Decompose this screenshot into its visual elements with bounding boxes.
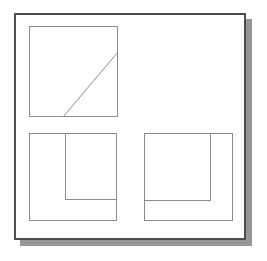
bottom-right-inner-rectangle (144, 133, 211, 201)
figure-bottom-right-nested-squares (0, 0, 267, 261)
drawing-canvas (0, 0, 267, 261)
